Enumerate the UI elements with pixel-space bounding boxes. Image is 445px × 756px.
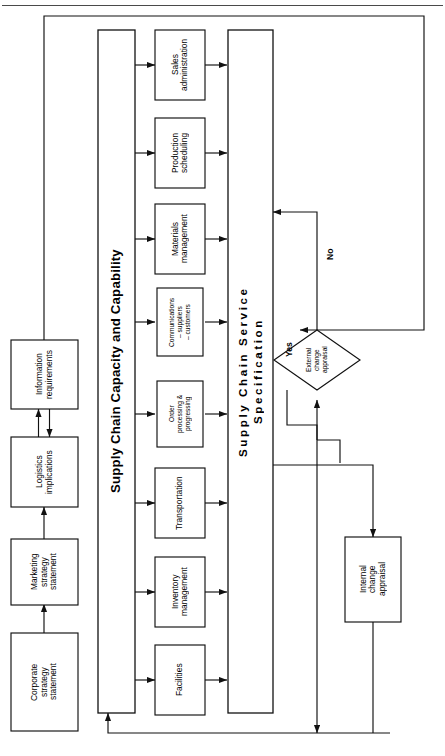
label-transportation: Transportation (155, 468, 205, 538)
label-information-requirements: Information requirements (11, 340, 78, 409)
label-order-processing-progressing: Order processing & progressing (157, 381, 203, 447)
label-inventory-management: Inventory management (155, 557, 205, 627)
label-production-scheduling: Production scheduling (155, 118, 205, 188)
loop-bottom-return-to-capacity (108, 713, 390, 733)
label-supply-chain-capacity-and-capability: Supply Chain Capacity and Capability (98, 30, 135, 713)
label-branch-yes: Yes (281, 330, 299, 370)
label-external-change-appraisal: External change appraisal (294, 332, 340, 388)
label-sales-administration: Sales administration (155, 30, 205, 100)
label-corporate-strategy-statement: Corporate strategy statement (11, 633, 78, 731)
label-materials-management: Materials management (155, 204, 205, 274)
label-logistics-implications: Logistics implications (11, 437, 78, 507)
label-internal-change-appraisal: Internal change appraisal (345, 537, 401, 622)
label-communications: Communications – suppliers – customers (157, 288, 203, 356)
label-facilities: Facilities (155, 645, 205, 715)
diagram-canvas: Corporate strategy statement Marketing s… (0, 0, 445, 756)
branch-yes-path (287, 390, 317, 733)
label-branch-no: No (322, 236, 340, 272)
label-supply-chain-service-specification: Supply Chain Service Specification (228, 30, 273, 713)
link-spec-to-internal-appraisal (273, 465, 373, 537)
label-marketing-strategy-statement: Marketing strategy statement (11, 539, 78, 605)
branch-feed-segment (317, 440, 340, 463)
branch-no-path (273, 212, 317, 330)
